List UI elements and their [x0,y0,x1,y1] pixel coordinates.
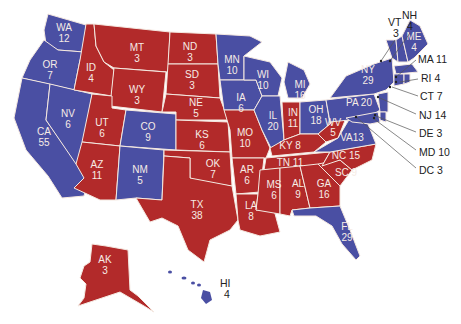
callout-MD: MD 10 [419,146,450,158]
svg-text:IN11: IN11 [288,107,299,129]
callout-NJ: NJ 14 [419,109,447,121]
svg-text:SC 9: SC 9 [335,167,358,178]
svg-text:KY 8: KY 8 [279,140,301,151]
callout-MA: MA 11 [418,53,447,65]
svg-text:VA13: VA13 [340,132,364,143]
callout-RI: RI 4 [421,72,440,84]
state-CT[interactable] [394,74,404,86]
state-NJ[interactable] [378,92,388,112]
svg-text:TN 11: TN 11 [277,157,304,168]
state-HI[interactable] [168,271,212,305]
svg-text:NC 15: NC 15 [332,150,361,161]
state-AK[interactable] [78,244,154,312]
svg-text:AZ11: AZ11 [91,159,104,181]
svg-text:NY29: NY29 [361,64,375,86]
svg-text:MN10: MN10 [224,54,240,76]
state-RI[interactable] [404,74,410,84]
states-layer [14,14,428,312]
svg-text:TX38: TX38 [191,199,204,221]
svg-text:WI10: WI10 [257,69,269,91]
svg-text:GA16: GA16 [317,178,332,200]
svg-text:CA55: CA55 [37,126,51,148]
callout-CT: CT 7 [420,90,443,102]
svg-text:PA 20: PA 20 [346,97,372,108]
svg-text:FL29: FL29 [341,221,353,243]
electoral-map: WA12 OR7 CA55 NV6 ID4 MT3 WY3 UT6 AZ11 C… [0,0,461,324]
callout-VT: VT3 [388,16,402,39]
svg-text:OH18: OH18 [309,104,324,126]
state-MA[interactable] [394,64,418,74]
callout-DC: DC 3 [419,164,443,176]
callout-DE: DE 3 [419,127,443,139]
svg-text:MI16: MI16 [294,79,306,101]
state-DE[interactable] [380,112,386,122]
callout-HI: HI4 [220,277,231,300]
